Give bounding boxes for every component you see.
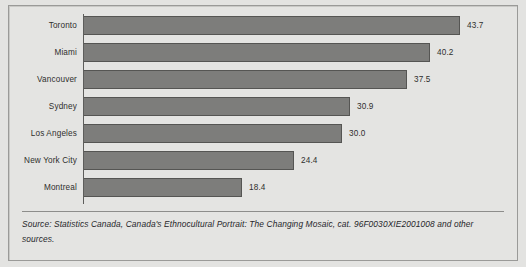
- category-label-los-angeles: Los Angeles: [9, 124, 77, 143]
- bar-value-los-angeles: 30.0: [349, 124, 366, 143]
- figure-frame: Toronto 43.7 Miami 40.2 Vancouver 37.5 S…: [8, 5, 518, 261]
- bar-value-new-york-city: 24.4: [301, 151, 318, 170]
- bar-row: Los Angeles 30.0: [9, 124, 517, 151]
- category-label-sydney: Sydney: [9, 97, 77, 116]
- source-note-divider: [22, 211, 504, 212]
- source-note-catalogue-number: 96F0030XIE2001008: [354, 219, 435, 229]
- bar-row: Vancouver 37.5: [9, 70, 517, 97]
- bar-vancouver: [84, 70, 407, 89]
- bar-toronto: [84, 16, 460, 35]
- category-label-miami: Miami: [9, 43, 77, 62]
- bar-row: Toronto 43.7: [9, 16, 517, 43]
- bar-miami: [84, 43, 430, 62]
- bar-montreal: [84, 178, 242, 197]
- category-label-new-york-city: New York City: [9, 151, 77, 170]
- bar-value-sydney: 30.9: [357, 97, 374, 116]
- bar-los-angeles: [84, 124, 342, 143]
- bar-row: Sydney 30.9: [9, 97, 517, 124]
- bar-sydney: [84, 97, 350, 116]
- bar-chart-plot-area: Toronto 43.7 Miami 40.2 Vancouver 37.5 S…: [9, 6, 517, 209]
- category-label-vancouver: Vancouver: [9, 70, 77, 89]
- bar-value-miami: 40.2: [437, 43, 454, 62]
- source-note: Source: Statistics Canada, Canada's Ethn…: [22, 217, 506, 246]
- bar-value-toronto: 43.7: [467, 16, 484, 35]
- figure-container: Toronto 43.7 Miami 40.2 Vancouver 37.5 S…: [0, 0, 526, 267]
- category-label-toronto: Toronto: [9, 16, 77, 35]
- bar-row: Montreal 18.4: [9, 178, 517, 205]
- bar-row: Miami 40.2: [9, 43, 517, 70]
- bar-value-vancouver: 37.5: [414, 70, 431, 89]
- bar-row: New York City 24.4: [9, 151, 517, 178]
- source-note-prefix: Source: Statistics Canada, Canada's Ethn…: [22, 219, 354, 229]
- category-label-montreal: Montreal: [9, 178, 77, 197]
- bar-new-york-city: [84, 151, 294, 170]
- bar-value-montreal: 18.4: [249, 178, 266, 197]
